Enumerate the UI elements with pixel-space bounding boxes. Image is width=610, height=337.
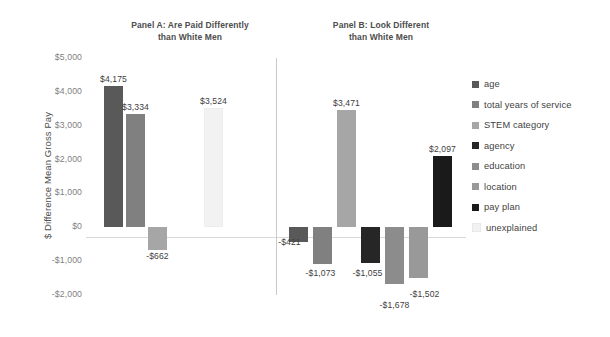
- legend-swatch-icon: [472, 204, 479, 211]
- legend-item-label: age: [484, 79, 500, 89]
- legend-swatch-icon: [472, 101, 479, 108]
- y-axis-tick-label: $2,000: [20, 154, 82, 164]
- legend-item-STEM-category[interactable]: STEM category: [472, 115, 608, 136]
- plot-area: $4,175$3,334-$662$3,524-$421-$1,073$3,47…: [86, 58, 466, 295]
- panel-b-title: Panel B: Look Different than White Men: [296, 20, 466, 43]
- y-axis-tick-label: $1,000: [20, 187, 82, 197]
- y-axis-tick-label: $0: [20, 221, 82, 231]
- bar-value-label: -$662: [135, 251, 181, 261]
- legend-item-label: total years of service: [484, 100, 571, 110]
- y-axis-tick-label: $5,000: [20, 52, 82, 62]
- legend-swatch-icon: [472, 122, 479, 129]
- bar-panel-b-pay-plan: [433, 156, 452, 227]
- y-axis-tick-label: $4,000: [20, 86, 82, 96]
- y-axis-tick-label: $3,000: [20, 120, 82, 130]
- bar-value-label: -$1,502: [402, 289, 448, 299]
- legend-swatch-icon: [472, 183, 479, 190]
- bar-panel-b-education: [385, 227, 404, 284]
- bar-value-label: $3,471: [324, 98, 370, 108]
- bar-value-label: -$421: [267, 237, 313, 247]
- bar-value-label: -$1,678: [372, 300, 418, 310]
- bar-value-label: $3,334: [113, 102, 159, 112]
- legend-item-location[interactable]: location: [472, 177, 608, 198]
- legend-item-label: agency: [484, 141, 515, 151]
- legend-item-total-years-of-service[interactable]: total years of service: [472, 95, 608, 116]
- chart-legend: agetotal years of serviceSTEM categoryag…: [472, 74, 608, 238]
- legend-item-label: unexplained: [486, 223, 537, 233]
- panel-a-title-line2: than White Men: [158, 32, 222, 42]
- legend-item-label: pay plan: [484, 202, 520, 212]
- legend-item-label: location: [484, 182, 517, 192]
- bar-panel-b-agency: [361, 227, 380, 263]
- bar-panel-a-total-years-of-service: [126, 114, 145, 227]
- panel-b-title-line2: than White Men: [349, 32, 413, 42]
- panel-a-title: Panel A: Are Paid Differently than White…: [100, 20, 280, 43]
- legend-item-agency[interactable]: agency: [472, 136, 608, 157]
- legend-item-label: STEM category: [484, 120, 549, 130]
- legend-item-pay-plan[interactable]: pay plan: [472, 197, 608, 218]
- figure-container: Panel A: Are Paid Differently than White…: [0, 0, 610, 337]
- bar-value-label: -$1,073: [298, 268, 344, 278]
- bar-value-label: $2,097: [420, 144, 466, 154]
- bar-panel-b-location: [409, 227, 428, 278]
- bar-panel-b-total-years-of-service: [313, 227, 332, 263]
- legend-swatch-icon: [472, 81, 479, 88]
- bar-value-label: $3,524: [191, 96, 237, 106]
- bar-panel-a-STEM-category: [148, 227, 167, 249]
- bar-panel-b-STEM-category: [337, 110, 356, 228]
- legend-swatch-icon: [472, 163, 479, 170]
- legend-item-age[interactable]: age: [472, 74, 608, 95]
- legend-item-education[interactable]: education: [472, 156, 608, 177]
- panel-b-title-line1: Panel B: Look Different: [333, 20, 429, 30]
- y-axis-tick-label: -$1,000: [20, 255, 82, 265]
- panel-a-title-line1: Panel A: Are Paid Differently: [131, 20, 249, 30]
- bar-value-label: -$1,055: [345, 268, 391, 278]
- panel-divider: [276, 58, 277, 295]
- y-axis-ticks: $5,000$4,000$3,000$2,000$1,000$0-$1,000-…: [18, 0, 82, 337]
- legend-item-label: education: [484, 161, 525, 171]
- legend-swatch-icon: [472, 142, 479, 149]
- y-axis-tick-label: -$2,000: [20, 289, 82, 299]
- legend-swatch-icon: [472, 223, 481, 232]
- bar-value-label: $4,175: [91, 74, 137, 84]
- legend-item-unexplained[interactable]: unexplained: [472, 218, 608, 239]
- bar-panel-a-unexplained: [204, 108, 223, 227]
